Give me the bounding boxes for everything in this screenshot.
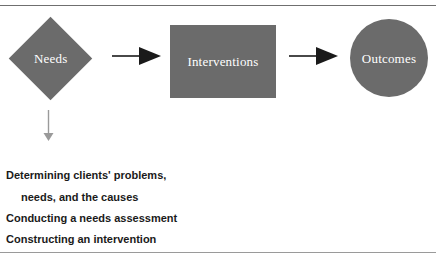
activity-line: needs, and the causes bbox=[21, 192, 138, 203]
node-interventions-label: Interventions bbox=[187, 55, 258, 68]
activity-line: Conducting a needs assessment bbox=[6, 213, 177, 224]
activity-line: Constructing an intervention bbox=[6, 234, 156, 245]
top-divider-rule bbox=[0, 5, 436, 6]
node-needs-label: Needs bbox=[34, 52, 68, 65]
arrow-needs-to-interventions-icon bbox=[112, 45, 162, 67]
node-interventions: Interventions bbox=[170, 25, 276, 98]
process-flow-diagram: Needs Interventions Outcomes Determining… bbox=[0, 0, 436, 258]
node-needs: Needs bbox=[9, 17, 92, 100]
bottom-divider-rule bbox=[0, 252, 436, 253]
node-outcomes: Outcomes bbox=[350, 19, 428, 97]
activity-line: Determining clients' problems, bbox=[6, 170, 166, 181]
arrow-interventions-to-outcomes-icon bbox=[289, 45, 339, 67]
arrow-needs-to-activities-icon bbox=[40, 110, 57, 142]
node-outcomes-label: Outcomes bbox=[362, 52, 416, 65]
